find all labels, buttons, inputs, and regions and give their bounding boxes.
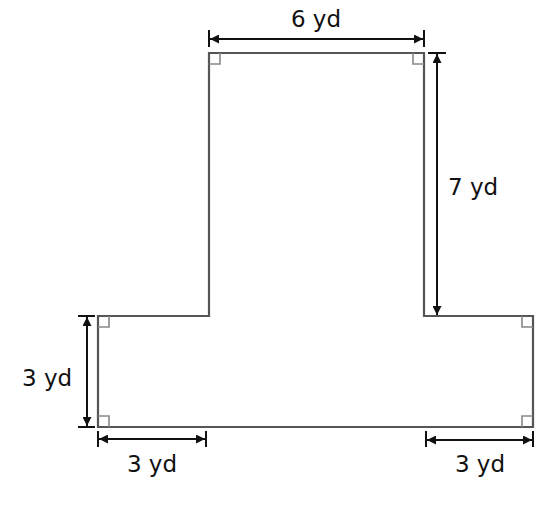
base-height-label: 3 yd	[22, 365, 72, 391]
top-width-dimension	[209, 30, 424, 47]
t-shape-outline	[98, 53, 533, 427]
stem-height-label: 7 yd	[448, 174, 498, 200]
right-overhang-label: 3 yd	[455, 451, 505, 477]
right-angle-marks	[98, 53, 533, 427]
right-overhang-dimension	[426, 431, 533, 447]
stem-height-dimension	[428, 53, 446, 315]
left-overhang-dimension	[98, 431, 206, 447]
t-shape-diagram: 6 yd 7 yd 3 yd 3 yd 3 yd	[0, 0, 539, 505]
base-height-dimension	[78, 316, 95, 427]
left-overhang-label: 3 yd	[127, 451, 177, 477]
top-width-label: 6 yd	[291, 6, 341, 32]
